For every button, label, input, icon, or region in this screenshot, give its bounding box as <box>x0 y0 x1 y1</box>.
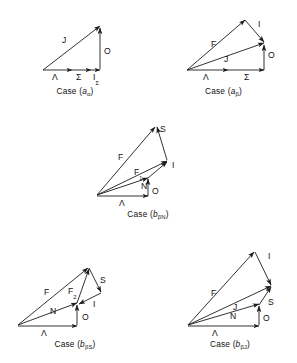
vector-diagram-canvas <box>0 0 297 363</box>
vector-F <box>187 20 245 70</box>
panel-case-a-beta <box>187 20 264 70</box>
panel-case-a-alpha <box>43 26 100 70</box>
vector-N <box>188 304 259 325</box>
panel-case-b-beta-n <box>97 127 167 196</box>
vector-F <box>97 127 155 195</box>
vector-S <box>259 287 271 305</box>
vector-I <box>245 20 264 42</box>
vector-S <box>157 127 167 160</box>
vector-F1 <box>97 161 167 195</box>
vector-N <box>18 303 77 325</box>
vector-F <box>188 252 254 325</box>
panel-case-b-beta-s <box>18 268 101 326</box>
vector-F2 <box>77 269 89 303</box>
vector-S <box>89 268 101 292</box>
figure-root: J O Λ Σ IΣ F I J O Λ Σ F S F1 I N O Λ F … <box>0 0 297 363</box>
vector-J <box>187 43 264 70</box>
vector-F <box>18 268 88 325</box>
vector-I <box>79 293 101 304</box>
vector-I <box>255 252 271 285</box>
vector-I <box>148 162 167 178</box>
panel-case-b-beta-j <box>188 252 271 326</box>
vector-J <box>43 26 100 70</box>
